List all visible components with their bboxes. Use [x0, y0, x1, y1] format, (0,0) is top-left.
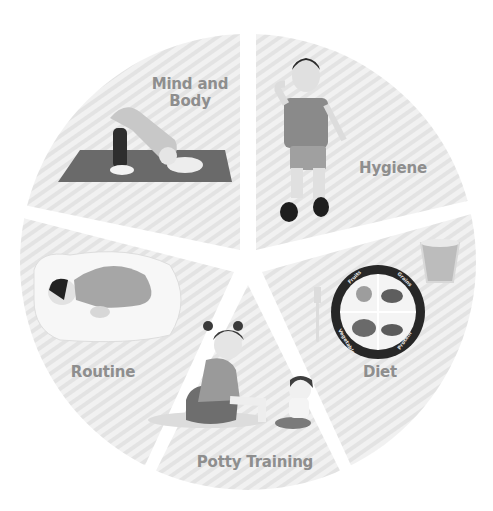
- glass-icon: [421, 243, 459, 282]
- label-potty-training: Potty Training: [190, 454, 320, 471]
- label-mind-and-body: Mind and Body: [140, 76, 240, 110]
- label-routine: Routine: [68, 364, 138, 381]
- sleeping-baby-illustration: [34, 252, 181, 342]
- label-hygiene: Hygiene: [358, 160, 428, 177]
- label-mind-and-body-line2: Body: [140, 93, 240, 110]
- pie-graphic: Fruits Grains Vegetables Protein: [0, 0, 493, 511]
- label-diet: Diet: [360, 364, 400, 381]
- label-mind-and-body-line1: Mind and: [140, 76, 240, 93]
- child-development-diagram: Fruits Grains Vegetables Protein Mind an…: [0, 0, 493, 511]
